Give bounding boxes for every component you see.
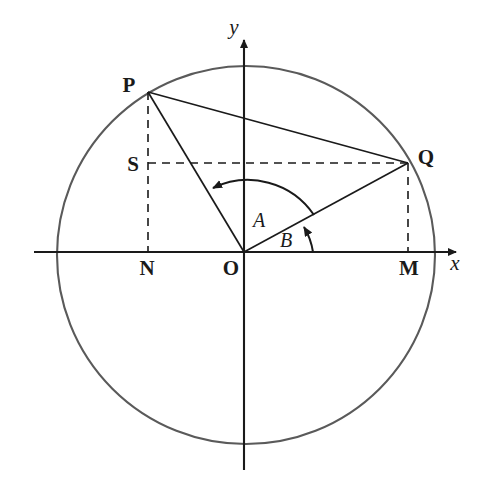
segment-OQ — [244, 163, 408, 252]
point-label-O: O — [223, 256, 239, 280]
x-axis-label: x — [449, 251, 460, 275]
point-label-N: N — [139, 256, 154, 280]
angle-arc-B — [304, 227, 313, 252]
point-label-P: P — [123, 73, 136, 97]
y-axis-label: y — [227, 15, 239, 39]
angle-label-B: B — [280, 229, 292, 251]
segment-OP — [148, 92, 244, 252]
segment-PQ — [148, 92, 408, 163]
point-label-Q: Q — [418, 145, 434, 169]
diagram-canvas: P Q N M S O x y A B — [0, 0, 483, 490]
unit-circle — [57, 66, 435, 444]
geometry-figure: P Q N M S O x y A B — [0, 0, 483, 490]
angle-label-A: A — [251, 209, 266, 231]
point-label-M: M — [399, 256, 419, 280]
point-label-S: S — [127, 152, 139, 176]
